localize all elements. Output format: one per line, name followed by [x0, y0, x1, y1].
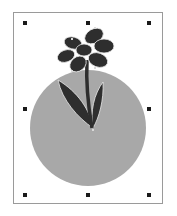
selection-handle-middle-right[interactable] — [147, 107, 151, 111]
selection-handle-middle-left[interactable] — [23, 107, 27, 111]
flower-center-shape[interactable] — [76, 44, 92, 56]
selection-handle-bottom-left[interactable] — [23, 193, 27, 197]
selection-handle-bottom-center[interactable] — [86, 193, 90, 197]
selection-handle-top-center[interactable] — [86, 21, 90, 25]
selection-handle-bottom-right[interactable] — [147, 193, 151, 197]
selection-handle-top-left[interactable] — [23, 21, 27, 25]
selection-handle-top-right[interactable] — [147, 21, 151, 25]
